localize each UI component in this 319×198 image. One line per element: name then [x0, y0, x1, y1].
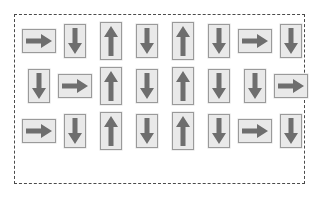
down-arrow-icon: [283, 28, 299, 54]
down-arrow-icon: [139, 73, 155, 99]
arrow-card-down[interactable]: [208, 24, 230, 58]
arrow-card-cell: [273, 108, 309, 153]
arrow-card-cell: [93, 18, 129, 63]
arrow-card-cell: [237, 18, 273, 63]
up-arrow-icon: [175, 71, 191, 101]
arrow-card-cell: [21, 63, 57, 108]
arrow-card-row: [15, 108, 304, 153]
dashed-selection-box[interactable]: [14, 14, 305, 184]
down-arrow-icon: [247, 73, 263, 99]
arrow-card-up[interactable]: [172, 112, 194, 150]
right-arrow-icon: [242, 123, 268, 139]
up-arrow-icon: [103, 26, 119, 56]
arrow-card-down[interactable]: [136, 69, 158, 103]
arrow-card-cell: [201, 63, 237, 108]
right-arrow-icon: [242, 33, 268, 49]
down-arrow-icon: [67, 28, 83, 54]
arrow-card-down[interactable]: [136, 114, 158, 148]
arrow-card-right[interactable]: [238, 29, 272, 53]
arrow-card-cell: [21, 18, 57, 63]
arrow-card-down[interactable]: [280, 114, 302, 148]
arrow-card-right[interactable]: [58, 74, 92, 98]
arrow-card-up[interactable]: [100, 112, 122, 150]
up-arrow-icon: [103, 116, 119, 146]
arrow-card-down[interactable]: [208, 69, 230, 103]
arrow-card-down[interactable]: [280, 24, 302, 58]
down-arrow-icon: [67, 118, 83, 144]
arrow-card-right[interactable]: [274, 74, 308, 98]
arrow-card-right[interactable]: [22, 29, 56, 53]
arrow-card-cell: [201, 108, 237, 153]
arrow-card-cell: [273, 18, 309, 63]
arrow-card-down[interactable]: [244, 69, 266, 103]
arrow-card-cell: [165, 63, 201, 108]
arrow-card-right[interactable]: [238, 119, 272, 143]
right-arrow-icon: [278, 78, 304, 94]
arrow-card-row: [15, 18, 304, 63]
down-arrow-icon: [283, 118, 299, 144]
arrow-card-down[interactable]: [64, 24, 86, 58]
arrow-card-cell: [129, 108, 165, 153]
arrow-card-up[interactable]: [172, 67, 194, 105]
arrow-card-grid: [15, 15, 304, 183]
arrow-card-cell: [237, 108, 273, 153]
arrow-card-cell: [21, 108, 57, 153]
right-arrow-icon: [62, 78, 88, 94]
down-arrow-icon: [139, 118, 155, 144]
up-arrow-icon: [103, 71, 119, 101]
arrow-card-right[interactable]: [22, 119, 56, 143]
up-arrow-icon: [175, 116, 191, 146]
down-arrow-icon: [211, 73, 227, 99]
arrow-card-cell: [93, 63, 129, 108]
right-arrow-icon: [26, 33, 52, 49]
right-arrow-icon: [26, 123, 52, 139]
arrow-card-cell: [129, 63, 165, 108]
arrow-card-up[interactable]: [100, 67, 122, 105]
arrow-card-cell: [93, 108, 129, 153]
arrow-card-up[interactable]: [172, 22, 194, 60]
arrow-card-cell: [273, 63, 309, 108]
arrow-card-cell: [57, 18, 93, 63]
down-arrow-icon: [211, 28, 227, 54]
arrow-card-cell: [201, 18, 237, 63]
up-arrow-icon: [175, 26, 191, 56]
arrow-card-cell: [165, 18, 201, 63]
arrow-card-down[interactable]: [28, 69, 50, 103]
arrow-card-up[interactable]: [100, 22, 122, 60]
down-arrow-icon: [31, 73, 47, 99]
down-arrow-icon: [211, 118, 227, 144]
down-arrow-icon: [139, 28, 155, 54]
arrow-card-cell: [129, 18, 165, 63]
arrow-card-row: [15, 63, 304, 108]
arrow-card-cell: [237, 63, 273, 108]
arrow-card-down[interactable]: [64, 114, 86, 148]
arrow-card-cell: [165, 108, 201, 153]
arrow-card-cell: [57, 63, 93, 108]
arrow-card-cell: [57, 108, 93, 153]
arrow-card-down[interactable]: [208, 114, 230, 148]
arrow-card-down[interactable]: [136, 24, 158, 58]
